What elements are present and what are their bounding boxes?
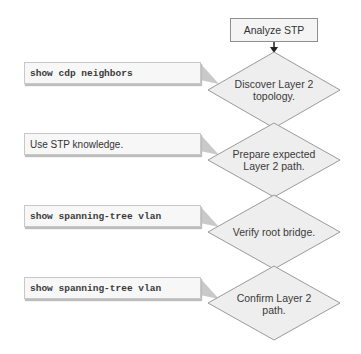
callout-pointer bbox=[200, 63, 219, 84]
start-box: Analyze STP bbox=[230, 18, 318, 42]
callout-command-1: show cdp neighbors bbox=[24, 62, 201, 84]
callout-pointer bbox=[200, 206, 219, 227]
start-label: Analyze STP bbox=[244, 24, 305, 36]
callout-text: show spanning-tree vlan bbox=[30, 211, 161, 222]
callout-text: Use STP knowledge. bbox=[30, 139, 123, 150]
step-label-3: Verify root bridge. bbox=[218, 225, 330, 239]
step-label-4: Confirm Layer 2 path. bbox=[226, 290, 322, 318]
callout-command-3: show spanning-tree vlan bbox=[24, 205, 201, 227]
callout-text: show cdp neighbors bbox=[30, 68, 133, 79]
step-label-1: Discover Layer 2 topology. bbox=[218, 76, 330, 104]
callout-command-4: show spanning-tree vlan bbox=[24, 277, 201, 299]
callout-pointer bbox=[200, 134, 219, 155]
callout-text-2: Use STP knowledge. bbox=[24, 133, 201, 155]
callout-text: show spanning-tree vlan bbox=[30, 283, 161, 294]
step-label-2: Prepare expected Layer 2 path. bbox=[228, 140, 320, 180]
callout-pointer bbox=[200, 278, 219, 299]
